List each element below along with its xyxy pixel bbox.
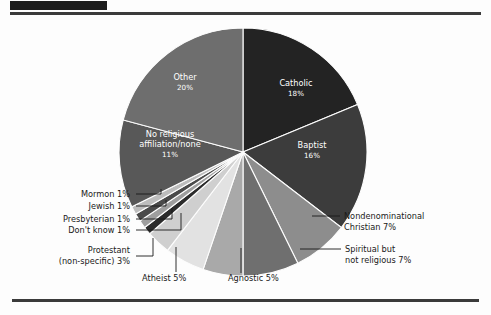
pie-slices-group (119, 28, 367, 276)
callout-label-spiritual-but-not-religious: Spiritual butnot religious 7% (345, 244, 412, 265)
callout-label-mormon: Mormon 1% (81, 189, 130, 199)
pie-chart: Catholic18%Baptist16%Other20%No religiou… (0, 0, 491, 315)
callout-label-nondenominational-christian: NondenominationalChristian 7% (344, 211, 424, 232)
callout-label-atheist: Atheist 5% (142, 273, 186, 283)
footer-divider (12, 299, 479, 302)
callout-label-dont-know: Don't know 1% (68, 225, 130, 235)
callout-label-jewish: Jewish 1% (88, 201, 131, 211)
callout-label-agnostic: Agnostic 5% (228, 273, 279, 283)
chart-page: Catholic18%Baptist16%Other20%No religiou… (0, 0, 491, 315)
callout-label-presbyterian: Presbyterian 1% (63, 214, 130, 224)
callout-label-protestant-non-specific: Protestant(non-specific) 3% (59, 245, 131, 266)
leader-line-protestant-non-specific (136, 238, 153, 256)
